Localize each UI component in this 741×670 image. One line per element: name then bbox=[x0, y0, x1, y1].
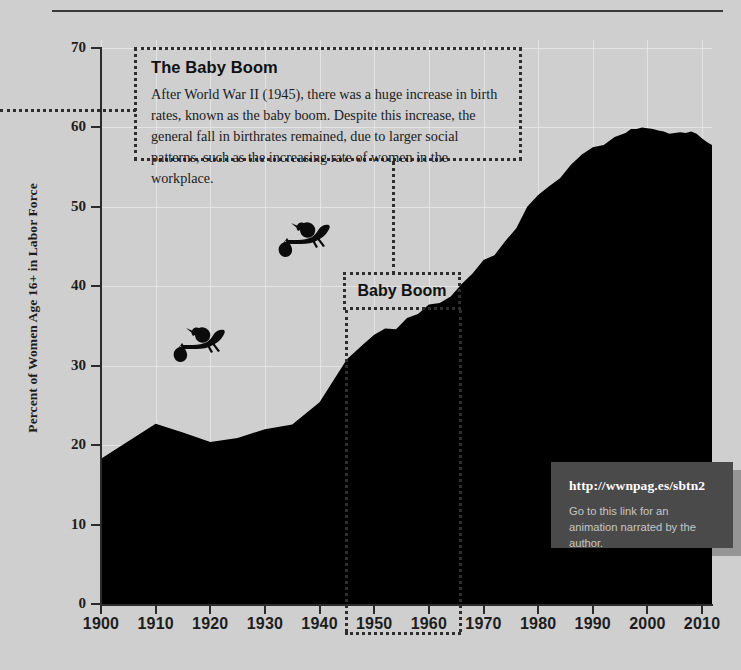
baby-boom-span-right-edge bbox=[459, 310, 462, 632]
x-axis-tick bbox=[100, 606, 102, 614]
x-axis-tick-label: 1910 bbox=[126, 615, 186, 633]
y-axis-tick-label: 30 bbox=[46, 357, 86, 374]
x-axis-tick-label: 1960 bbox=[399, 615, 459, 633]
x-axis-tick-label: 1990 bbox=[563, 615, 623, 633]
stork-with-bundle-icon bbox=[166, 327, 228, 373]
y-axis-tick-label: 10 bbox=[46, 516, 86, 533]
baby-boom-span-bottom-edge bbox=[345, 632, 461, 635]
url-callout: http://wwnpag.es/sbtn2 Go to this link f… bbox=[551, 462, 733, 548]
url-link[interactable]: http://wwnpag.es/sbtn2 bbox=[569, 478, 717, 494]
baby-boom-label: Baby Boom bbox=[358, 282, 447, 300]
y-axis-tick bbox=[91, 47, 100, 49]
y-axis-tick bbox=[91, 524, 100, 526]
x-axis-tick-label: 2010 bbox=[672, 615, 732, 633]
y-axis-tick-label: 50 bbox=[46, 198, 86, 215]
x-axis-tick bbox=[155, 606, 157, 614]
x-axis-tick-label: 1950 bbox=[344, 615, 404, 633]
callout-connector-line bbox=[392, 161, 395, 275]
baby-boom-callout: The Baby Boom After World War II (1945),… bbox=[134, 47, 522, 161]
y-axis-tick bbox=[91, 285, 100, 287]
callout-body: After World War II (1945), there was a h… bbox=[151, 84, 505, 188]
x-axis-tick bbox=[264, 606, 266, 614]
y-axis-tick bbox=[91, 444, 100, 446]
chart-page: Percent of Women Age 16+ in Labor Force … bbox=[0, 0, 741, 670]
x-axis-tick bbox=[319, 606, 321, 614]
y-axis-tick bbox=[91, 365, 100, 367]
x-axis-tick bbox=[537, 606, 539, 614]
callout-title: The Baby Boom bbox=[151, 58, 505, 77]
y-axis-tick-label: 40 bbox=[46, 277, 86, 294]
x-axis-tick bbox=[483, 606, 485, 614]
x-axis-tick bbox=[373, 606, 375, 614]
x-axis-tick bbox=[592, 606, 594, 614]
baby-boom-span-left-edge bbox=[345, 310, 348, 632]
x-axis-tick-label: 1970 bbox=[454, 615, 514, 633]
y-axis-line bbox=[100, 47, 102, 605]
stork-with-bundle-icon bbox=[271, 222, 333, 268]
x-axis-tick-label: 1920 bbox=[180, 615, 240, 633]
x-axis-tick bbox=[646, 606, 648, 614]
x-axis-tick-label: 2000 bbox=[617, 615, 677, 633]
x-axis-tick bbox=[701, 606, 703, 614]
callout-leader-line-left bbox=[0, 109, 136, 112]
url-caption: Go to this link for an animation narrate… bbox=[569, 504, 717, 552]
y-axis-tick-label: 70 bbox=[46, 39, 86, 56]
y-axis-tick-label: 20 bbox=[46, 436, 86, 453]
y-axis-title: Percent of Women Age 16+ in Labor Force bbox=[25, 163, 41, 453]
baby-boom-label-box: Baby Boom bbox=[343, 272, 461, 310]
x-axis-tick bbox=[209, 606, 211, 614]
y-axis-tick bbox=[91, 126, 100, 128]
x-axis-tick-label: 1980 bbox=[508, 615, 568, 633]
x-axis-line bbox=[100, 604, 713, 606]
x-axis-tick-label: 1930 bbox=[235, 615, 295, 633]
y-axis-tick bbox=[91, 206, 100, 208]
x-axis-tick-label: 1940 bbox=[290, 615, 350, 633]
x-axis-tick-label: 1900 bbox=[71, 615, 131, 633]
y-axis-tick-label: 60 bbox=[46, 118, 86, 135]
top-divider-rule bbox=[52, 10, 723, 12]
y-axis-tick bbox=[91, 603, 100, 605]
y-axis-tick-label: 0 bbox=[46, 595, 86, 612]
x-axis-tick bbox=[428, 606, 430, 614]
